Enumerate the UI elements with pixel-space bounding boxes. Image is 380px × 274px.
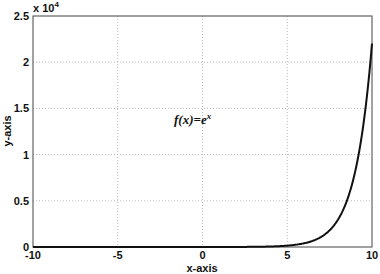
plot-area-frame (33, 16, 372, 247)
x-tick-label: 5 (284, 249, 290, 261)
x-axis-label: x-axis (186, 262, 217, 274)
y-tick-label: 0 (23, 241, 29, 253)
exponential-chart: -10-5051000.511.522.5 x 104 f(x)=ex x-ax… (0, 0, 380, 274)
y-tick-label: 2 (23, 56, 29, 68)
y-tick-label: 1 (23, 149, 29, 161)
y-multiplier-label: x 104 (33, 0, 59, 14)
x-tick-label: 10 (366, 249, 378, 261)
x-tick-label: 0 (199, 249, 205, 261)
grid-lines (33, 16, 372, 247)
y-tick-label: 2.5 (14, 10, 29, 22)
function-annotation: f(x)=ex (174, 111, 212, 127)
x-tick-label: -5 (113, 249, 123, 261)
y-tick-label: 1.5 (14, 102, 29, 114)
axis-ticks: -10-5051000.511.522.5 (14, 10, 378, 261)
y-tick-label: 0.5 (14, 195, 29, 207)
y-axis-label: y-axis (1, 115, 13, 146)
